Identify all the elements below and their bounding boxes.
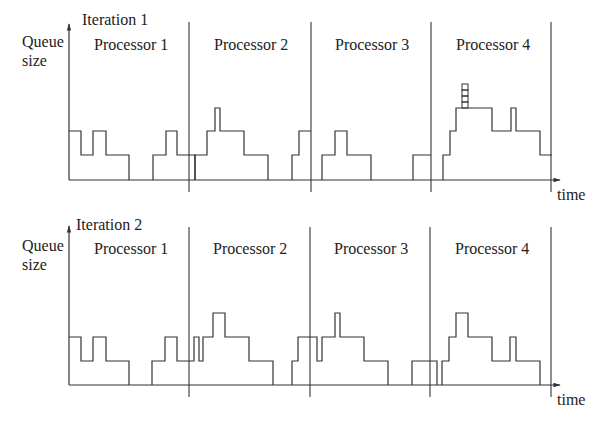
- y-axis-label-line1: Queue: [22, 32, 64, 51]
- queue-size-trace: [442, 313, 540, 385]
- y-axis-label-2: Queue size: [22, 236, 64, 274]
- iteration-1-processor-1-label: Processor 1: [94, 36, 168, 54]
- queue-overflow-box: [462, 84, 468, 90]
- queue-overflow-box: [462, 96, 468, 102]
- iteration-1-title: Iteration 1: [82, 11, 148, 29]
- queue-size-trace: [69, 337, 129, 385]
- y-axis-label-1: Queue size: [22, 32, 64, 70]
- queue-size-trace: [292, 131, 311, 180]
- queue-size-trace: [443, 108, 552, 180]
- queue-size-trace: [69, 131, 129, 180]
- queue-size-trace: [153, 131, 189, 180]
- queue-overflow-box: [462, 90, 468, 96]
- queue-size-trace: [322, 131, 371, 180]
- queue-overflow-box: [462, 102, 468, 108]
- iteration-2-processor-4-label: Processor 4: [455, 240, 529, 258]
- iteration-1-processor-2-label: Processor 2: [214, 36, 288, 54]
- iteration-2-processor-2-label: Processor 2: [213, 240, 287, 258]
- y-axis-label-line2: size: [22, 51, 64, 70]
- iteration-2-title: Iteration 2: [76, 216, 142, 234]
- y-axis-label-line2: size: [22, 255, 64, 274]
- queue-size-trace: [413, 155, 431, 180]
- queue-size-trace: [195, 108, 268, 180]
- iteration-1-processor-4-label: Processor 4: [456, 36, 530, 54]
- queue-size-trace: [189, 155, 195, 180]
- x-axis-label-2: time: [557, 391, 585, 409]
- x-axis-label-1: time: [557, 186, 585, 204]
- iteration-1-processor-3-label: Processor 3: [335, 36, 409, 54]
- queue-size-trace: [412, 361, 437, 385]
- diagram-canvas: [0, 0, 605, 422]
- iteration-2-processor-3-label: Processor 3: [334, 240, 408, 258]
- queue-size-trace: [152, 313, 273, 385]
- queue-size-trace: [292, 313, 388, 385]
- iteration-2-processor-1-label: Processor 1: [94, 240, 168, 258]
- y-axis-label-line1: Queue: [22, 236, 64, 255]
